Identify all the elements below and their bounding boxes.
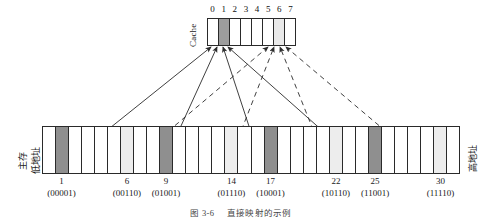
figure-caption-text: 直接映射的示例: [227, 208, 292, 218]
memory-block-30: [434, 127, 447, 173]
address-label-1: 1(00001): [36, 176, 88, 199]
cache-cell-1: [219, 19, 230, 45]
memory-block-4: [95, 127, 108, 173]
cache-index-2: 2: [229, 3, 240, 16]
memory-block-14: [225, 127, 238, 173]
memory-block-13: [212, 127, 225, 173]
cache-index-3: 3: [240, 3, 251, 16]
cache-cell-6: [274, 19, 285, 45]
address-label-25: 25(11001): [349, 176, 401, 199]
address-decimal-1: 1: [36, 176, 88, 187]
memory-block-17: [265, 127, 278, 173]
cache-cell-3: [241, 19, 252, 45]
cache-cell-5: [263, 19, 274, 45]
memory-block-23: [343, 127, 356, 173]
memory-address-labels: 1(00001)6(00110)9(01001)14(01110)17(1000…: [0, 176, 482, 206]
memory-block-28: [408, 127, 421, 173]
memory-low-address-text: 低地址: [29, 147, 42, 174]
address-binary-17: (10001): [245, 187, 297, 199]
address-binary-1: (00001): [36, 187, 88, 199]
memory-block-21: [317, 127, 330, 173]
address-label-17: 17(10001): [245, 176, 297, 199]
cache-index-1: 1: [218, 3, 229, 16]
memory-block-24: [356, 127, 369, 173]
memory-low-address-label: 主存 低地址: [6, 126, 40, 174]
memory-block-22: [330, 127, 343, 173]
memory-block-2: [69, 127, 82, 173]
memory-high-address-label: 高地址: [462, 126, 482, 174]
cache-box: [207, 18, 296, 46]
address-decimal-25: 25: [349, 176, 401, 187]
memory-block-29: [421, 127, 434, 173]
memory-block-10: [173, 127, 186, 173]
memory-block-18: [278, 127, 291, 173]
memory-block-25: [369, 127, 382, 173]
memory-high-address-text: 高地址: [466, 145, 479, 172]
cache-index-row: 0 1 2 3 4 5 6 7: [207, 3, 296, 16]
memory-block-26: [382, 127, 395, 173]
memory-block-8: [147, 127, 160, 173]
cache-label-text: Cache: [188, 24, 198, 48]
address-decimal-9: 9: [140, 176, 192, 187]
cache-cell-4: [252, 19, 263, 45]
cache-cell-2: [230, 19, 241, 45]
memory-block-9: [160, 127, 173, 173]
cache-cell-7: [285, 19, 295, 45]
memory-block-5: [108, 127, 121, 173]
cache-index-5: 5: [263, 3, 274, 16]
memory-block-16: [252, 127, 265, 173]
memory-title-text: 主存: [16, 152, 29, 170]
address-binary-25: (11001): [349, 187, 401, 199]
address-label-30: 30(11110): [414, 176, 466, 199]
cache-index-6: 6: [274, 3, 285, 16]
address-binary-30: (11110): [414, 187, 466, 199]
address-binary-9: (01001): [140, 187, 192, 199]
main-memory-box: [42, 126, 460, 174]
cache-block-row: [207, 18, 296, 46]
cache-index-0: 0: [207, 3, 218, 16]
address-label-9: 9(01001): [140, 176, 192, 199]
figure-caption: 图 3-6 直接映射的示例: [0, 206, 482, 218]
memory-block-12: [199, 127, 212, 173]
cache-cell-0: [208, 19, 219, 45]
memory-block-31: [447, 127, 459, 173]
memory-block-6: [121, 127, 134, 173]
memory-block-27: [395, 127, 408, 173]
cache-label: Cache: [179, 17, 209, 47]
memory-block-3: [82, 127, 95, 173]
direct-mapped-cache-diagram: 0 1 2 3 4 5 6 7 Cache 主存 低地址 高地址 1(00001…: [0, 0, 482, 219]
memory-block-1: [56, 127, 69, 173]
address-decimal-17: 17: [245, 176, 297, 187]
memory-block-19: [291, 127, 304, 173]
figure-caption-number: 图 3-6: [190, 208, 214, 218]
memory-block-0: [43, 127, 56, 173]
memory-block-11: [186, 127, 199, 173]
cache-index-4: 4: [252, 3, 263, 16]
cache-index-7: 7: [285, 3, 296, 16]
address-decimal-30: 30: [414, 176, 466, 187]
memory-block-20: [304, 127, 317, 173]
memory-block-15: [238, 127, 251, 173]
memory-block-7: [134, 127, 147, 173]
